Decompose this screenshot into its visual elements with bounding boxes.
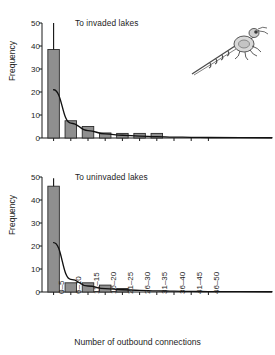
panel-title-uninvaded: To uninvaded lakes — [75, 172, 148, 182]
x-tick-8: 41–45 — [195, 272, 204, 294]
panel-invaded-lakes: To invaded lakes Frequency 50 40 30 20 1… — [0, 6, 275, 156]
y-axis-label-top: Frequency — [7, 21, 17, 101]
panel-uninvaded-lakes: To uninvaded lakes Frequency 50 40 30 20… — [0, 160, 275, 310]
x-tick-7: 36–40 — [178, 272, 187, 294]
y-tick-20-top: 20 — [22, 89, 40, 97]
figure-container: To invaded lakes Frequency 50 40 30 20 1… — [0, 0, 275, 355]
y-tick-10-bottom: 10 — [22, 266, 40, 274]
y-tick-10-top: 10 — [22, 112, 40, 120]
y-tick-30-top: 30 — [22, 66, 40, 74]
y-axis-label-bottom: Frequency — [7, 175, 17, 255]
x-tick-6: 31–35 — [160, 272, 169, 294]
y-tick-50-bottom: 50 — [22, 174, 40, 182]
spiny-water-flea-icon — [188, 20, 274, 80]
y-tick-20-bottom: 20 — [22, 243, 40, 251]
x-tick-0: 0–5 — [57, 281, 66, 294]
x-tick-4: 21–25 — [126, 272, 135, 294]
y-tick-30-bottom: 30 — [22, 220, 40, 228]
y-tick-40-bottom: 40 — [22, 197, 40, 205]
x-tick-1: 6–10 — [74, 276, 83, 294]
x-axis-label: Number of outbound connections — [0, 337, 275, 347]
panel-title-invaded: To invaded lakes — [75, 18, 138, 28]
x-tick-2: 11–15 — [92, 272, 101, 294]
y-tick-40-top: 40 — [22, 43, 40, 51]
y-tick-50-top: 50 — [22, 20, 40, 28]
x-tick-5: 26–30 — [143, 272, 152, 294]
x-tick-3: 16–20 — [109, 272, 118, 294]
x-tick-9: 46–50 — [212, 272, 221, 294]
y-tick-0-top: 0 — [22, 135, 40, 143]
plot-area-uninvaded — [0, 160, 275, 310]
